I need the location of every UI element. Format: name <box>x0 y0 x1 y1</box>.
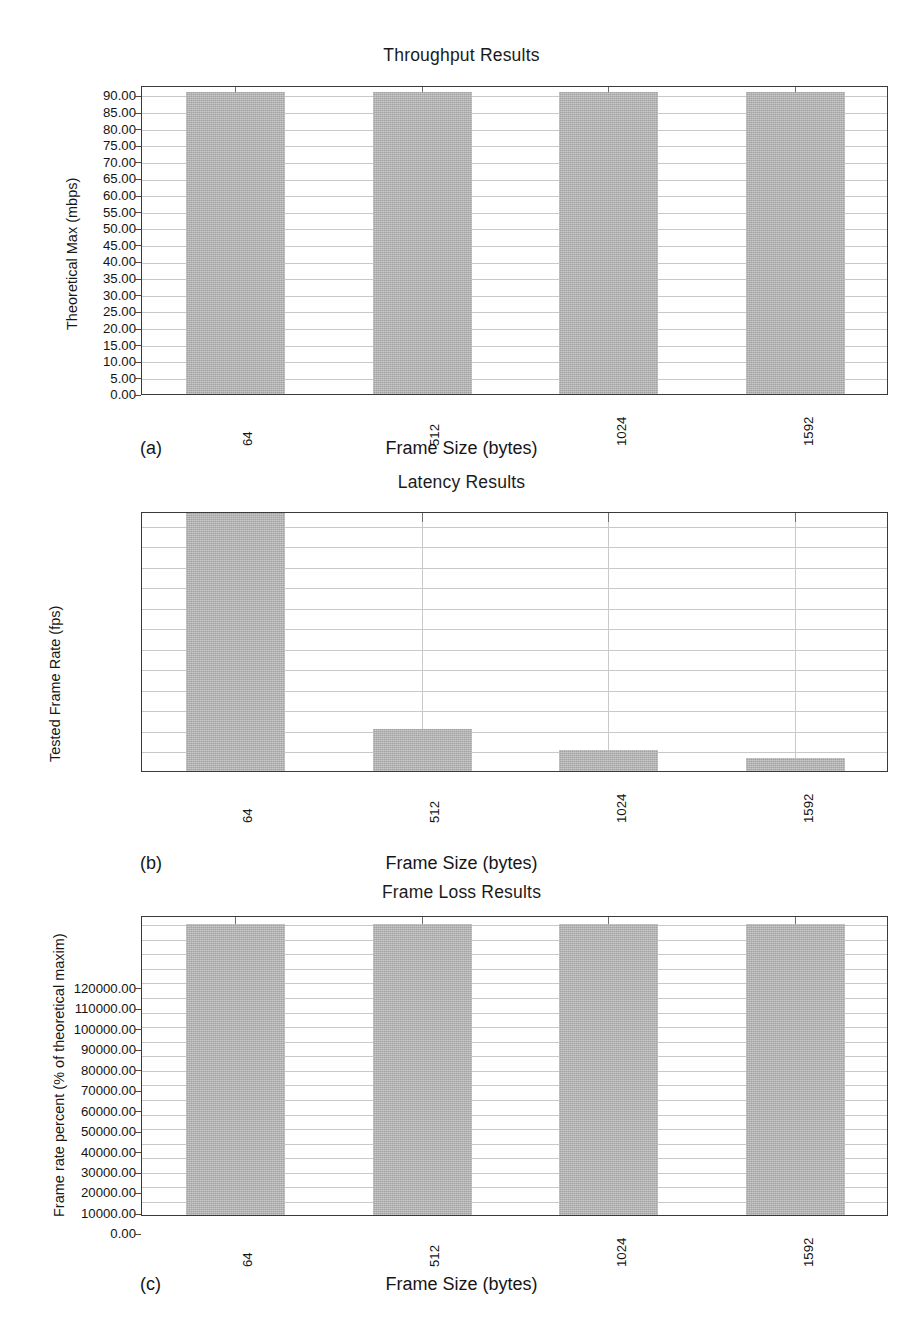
y-tick-label: 35.00 <box>0 272 136 285</box>
y-tick-label: 5.00 <box>0 372 136 385</box>
bar <box>559 924 658 1215</box>
x-tick-label: 512 <box>427 1245 442 1267</box>
panel-a-x-axis-title: Frame Size (bytes) <box>0 438 923 459</box>
y-tick-label: 80.00 <box>0 123 136 136</box>
bar <box>746 758 845 772</box>
panel-c-letter: (c) <box>140 1274 161 1295</box>
top-tick-mark <box>795 513 796 522</box>
y-tick-label: 45.00 <box>0 239 136 252</box>
panel-b-x-axis-title: Frame Size (bytes) <box>0 853 923 874</box>
panel-b-title: Latency Results <box>0 472 923 493</box>
panel-a-title: Throughput Results <box>0 45 923 66</box>
panel-b-y-axis-title: Tested Frame Rate (fps) <box>47 606 63 762</box>
bar <box>186 924 285 1215</box>
panel-a-letter: (a) <box>140 438 162 459</box>
y-tick-label: 75.00 <box>0 139 136 152</box>
x-tick-label: 512 <box>427 801 442 823</box>
x-tick-label: 1592 <box>801 794 816 823</box>
bar <box>373 729 472 771</box>
y-tick-label: 65.00 <box>0 172 136 185</box>
panel-c-title: Frame Loss Results <box>0 882 923 903</box>
y-tick-label: 25.00 <box>0 305 136 318</box>
panel-a-plot-area <box>141 86 888 395</box>
gridline-vertical <box>795 513 796 771</box>
bar <box>186 512 285 771</box>
bar <box>373 924 472 1215</box>
bar <box>746 92 845 394</box>
y-tick-label: 10.00 <box>0 355 136 368</box>
y-tick-label: 20.00 <box>0 322 136 335</box>
bar <box>559 750 658 771</box>
top-tick-mark <box>608 513 609 522</box>
gridline-vertical <box>608 513 609 771</box>
panel-b-letter: (b) <box>140 853 162 874</box>
panel-a-throughput: Throughput Results Theoretical Max (mbps… <box>0 0 923 470</box>
y-tick-mark <box>135 395 141 396</box>
y-tick-label: 15.00 <box>0 339 136 352</box>
x-tick-label: 64 <box>240 1252 255 1267</box>
panel-c-frame-loss: Frame Loss Results Frame rate percent (%… <box>0 872 923 1330</box>
panel-c-plot-area <box>141 916 888 1216</box>
y-tick-label: 60.00 <box>0 189 136 202</box>
top-tick-mark <box>422 513 423 522</box>
x-tick-label: 1592 <box>801 1238 816 1267</box>
bar <box>559 92 658 394</box>
panel-c-x-axis-title: Frame Size (bytes) <box>0 1274 923 1295</box>
bar <box>186 92 285 394</box>
y-tick-label: 30.00 <box>0 289 136 302</box>
y-tick-label: 55.00 <box>0 206 136 219</box>
y-tick-label: 0.00 <box>0 388 136 401</box>
y-tick-label: 70.00 <box>0 156 136 169</box>
y-tick-label: 50.00 <box>0 222 136 235</box>
panel-b-latency: Latency Results Tested Frame Rate (fps) … <box>0 462 923 882</box>
y-tick-label: 40.00 <box>0 255 136 268</box>
bar <box>373 92 472 394</box>
x-tick-label: 64 <box>240 808 255 823</box>
panel-c-y-axis-title: Frame rate percent (% of theoretical max… <box>51 933 67 1217</box>
x-tick-label: 1024 <box>614 794 629 823</box>
x-tick-label: 1024 <box>614 1238 629 1267</box>
y-tick-label: 85.00 <box>0 106 136 119</box>
y-tick-label: 90.00 <box>0 89 136 102</box>
panel-b-plot-area <box>141 512 888 772</box>
bar <box>746 924 845 1215</box>
figure-three-bar-charts: Throughput Results Theoretical Max (mbps… <box>0 0 923 1330</box>
